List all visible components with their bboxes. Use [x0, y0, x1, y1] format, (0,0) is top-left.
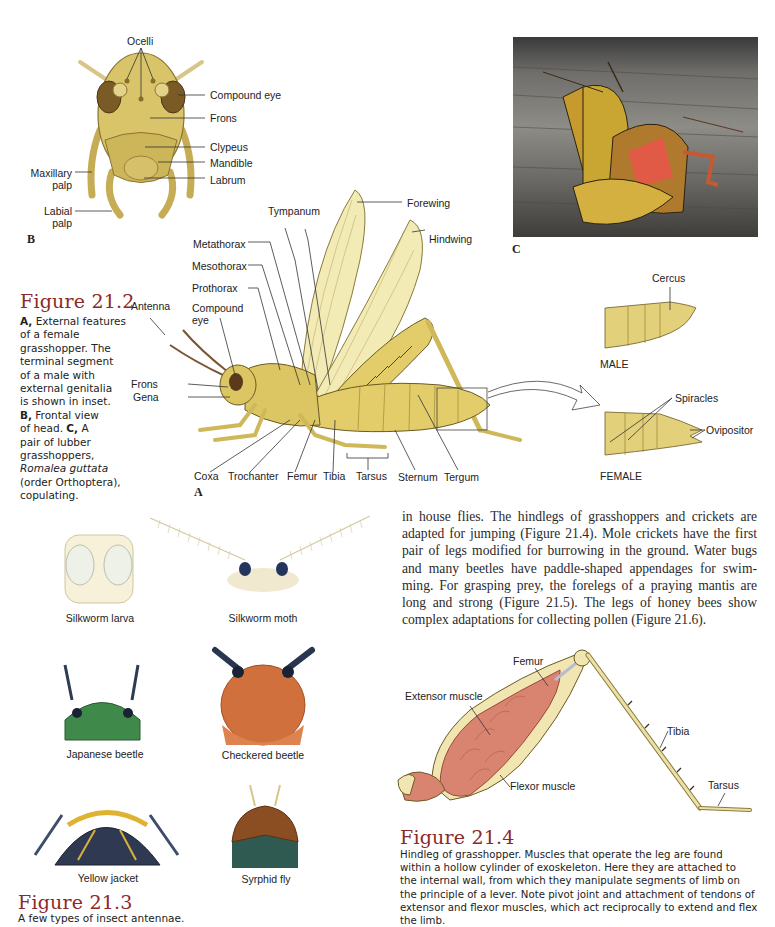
- label-femur-leg: Femur: [513, 655, 543, 667]
- label-extensor-muscle: Extensor muscle: [405, 690, 483, 702]
- figure-21-4-title: Figure 21.4: [400, 826, 515, 848]
- hindleg-illustration: [0, 0, 775, 927]
- figure-21-4-caption: Hindleg of grasshopper. Muscles that ope…: [400, 848, 775, 927]
- label-tarsus-leg: Tarsus: [708, 779, 739, 791]
- label-tibia-leg: Tibia: [667, 725, 689, 737]
- label-flexor-muscle: Flexor muscle: [510, 780, 575, 792]
